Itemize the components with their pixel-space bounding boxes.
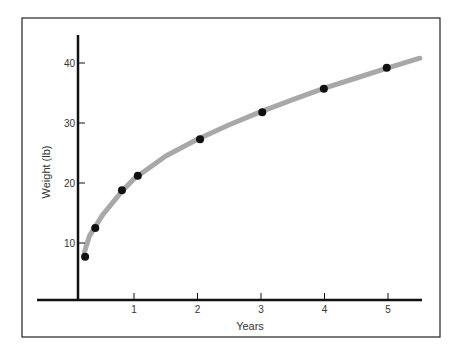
y-axis-title: Weight (lb) [40,146,52,199]
y-tick-label: 20 [64,178,76,189]
chart-frame [22,18,440,337]
data-point [118,186,126,194]
x-tick-label: 4 [322,304,328,315]
x-tick-label: 5 [385,304,391,315]
chart: 10203040 12345 Years Weight (lb) [0,0,463,352]
x-ticks: 12345 [131,293,391,315]
y-ticks: 10203040 [64,58,85,249]
x-tick-label: 1 [131,304,137,315]
x-tick-label: 3 [258,304,264,315]
data-point [383,64,391,72]
data-point [134,172,142,180]
data-point [258,108,266,116]
data-point [196,135,204,143]
x-tick-label: 2 [195,304,201,315]
data-point [91,224,99,232]
y-tick-label: 30 [64,118,76,129]
data-point [81,253,89,261]
x-axis-title: Years [236,320,264,332]
data-point [320,85,328,93]
data-points [81,64,391,261]
fitted-curve [85,58,420,252]
y-tick-label: 40 [64,58,76,69]
y-tick-label: 10 [64,238,76,249]
